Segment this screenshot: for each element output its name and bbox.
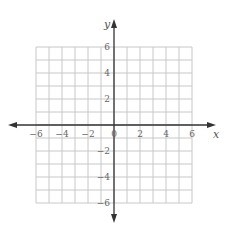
x-tick-label: −2: [81, 129, 94, 139]
y-tick-label: −4: [97, 172, 111, 182]
y-tick-label: −6: [97, 198, 111, 208]
x-tick-label: 6: [189, 129, 195, 139]
x-tick-label: −4: [55, 129, 69, 139]
y-axis-label: y: [103, 18, 111, 31]
axes: [8, 19, 216, 223]
x-tick-label: 4: [163, 129, 169, 139]
y-axis-bottom-arrow-icon: [111, 214, 117, 223]
x-tick-label: 2: [137, 129, 143, 139]
y-tick-label: −2: [97, 146, 110, 156]
coordinate-plane: −6−4−20246−6−4−2246 x y: [0, 0, 227, 234]
y-tick-label: 4: [104, 68, 110, 78]
y-axis-top-arrow-icon: [111, 19, 117, 28]
x-axis-label: x: [213, 128, 220, 141]
y-tick-label: 6: [104, 42, 110, 52]
x-axis-left-arrow-icon: [8, 122, 17, 128]
x-tick-label: 0: [111, 129, 117, 139]
x-tick-label: −6: [29, 129, 43, 139]
y-tick-label: 2: [104, 94, 110, 104]
